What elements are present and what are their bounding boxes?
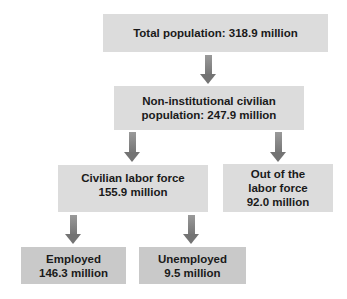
employed-box: Employed 146.3 million — [21, 247, 126, 284]
unemployed-line1: Unemployed — [158, 252, 227, 266]
out-line2: labor force — [247, 181, 310, 195]
total-population-label: Total population: 318.9 million — [133, 27, 298, 39]
employed-line2: 146.3 million — [39, 266, 108, 280]
out-line1: Out of the — [247, 167, 310, 181]
out-of-labor-force-box: Out of the labor force 92.0 million — [223, 164, 333, 212]
civilian-labor-force-box: Civilian labor force 155.9 million — [58, 165, 208, 212]
noninst-line1: Non-institutional civilian — [142, 94, 277, 108]
arrow-down-icon — [200, 55, 217, 84]
unemployed-line2: 9.5 million — [158, 266, 227, 280]
employed-line1: Employed — [39, 252, 108, 266]
out-line3: 92.0 million — [247, 195, 310, 209]
arrow-down-icon — [270, 132, 287, 162]
arrow-down-icon — [65, 215, 82, 244]
total-population-box: Total population: 318.9 million — [103, 14, 328, 52]
labor-force-line1: Civilian labor force — [81, 171, 185, 185]
noninst-line2: population: 247.9 million — [142, 108, 277, 122]
arrow-down-icon — [124, 132, 141, 162]
noninstitutional-population-box: Non-institutional civilian population: 2… — [114, 86, 304, 130]
labor-force-line2: 155.9 million — [81, 185, 185, 199]
unemployed-box: Unemployed 9.5 million — [139, 247, 246, 284]
arrow-down-icon — [183, 215, 200, 244]
